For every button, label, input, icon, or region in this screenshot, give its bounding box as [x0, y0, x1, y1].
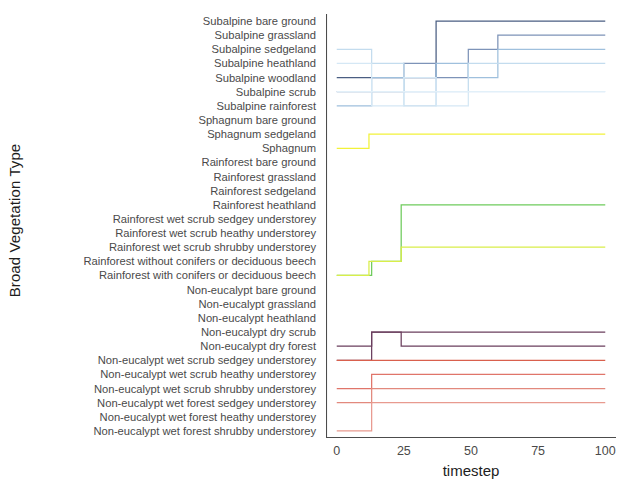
- series-line: [337, 389, 606, 403]
- series-line: [337, 247, 606, 275]
- y-axis-tick-label: Non-eucalypt wet scrub heathy understore…: [100, 369, 316, 380]
- y-axis-tick-label: Non-eucalypt wet scrub shrubby understor…: [94, 383, 316, 394]
- y-axis-tick-label: Rainforest wet scrub sedgey understorey: [113, 213, 316, 224]
- y-axis-tick-label: Rainforest wet scrub heathy understorey: [115, 228, 316, 239]
- x-axis-tick-labels: 0255075100: [326, 444, 616, 460]
- y-axis-tick-label: Non-eucalypt wet forest sedgey understor…: [97, 397, 316, 408]
- series-line: [337, 332, 606, 346]
- series-line: [337, 134, 606, 148]
- y-axis-tick-label: Subalpine heathland: [214, 58, 316, 69]
- x-axis-tick-label: 50: [464, 444, 478, 458]
- y-axis-tick-label: Non-eucalypt grassland: [198, 298, 316, 309]
- series-line: [337, 205, 606, 276]
- y-axis-tick-label: Non-eucalypt dry forest: [200, 341, 316, 352]
- x-axis-title: timestep: [326, 462, 616, 479]
- y-axis-tick-label: Sphagnum: [262, 143, 316, 154]
- y-axis-tick-label: Sphagnum bare ground: [198, 115, 316, 126]
- series-line: [337, 374, 606, 388]
- series-line: [337, 63, 606, 105]
- plot-svg: [326, 14, 616, 438]
- series-line: [337, 49, 606, 106]
- y-axis-tick-label: Subalpine sedgeland: [211, 44, 316, 55]
- y-axis-tick-label: Non-eucalypt wet forest heathy understor…: [100, 411, 316, 422]
- y-axis-tick-label: Rainforest wet scrub shrubby understorey: [109, 242, 316, 253]
- y-axis-tick-label: Sphagnum sedgeland: [207, 129, 316, 140]
- series-group: [337, 21, 606, 431]
- y-axis-tick-label: Non-eucalypt heathland: [198, 312, 316, 323]
- y-axis-tick-label: Non-eucalypt wet forest shrubby understo…: [93, 425, 316, 436]
- y-axis-tick-label: Rainforest without conifers or deciduous…: [83, 256, 316, 267]
- y-axis-tick-label: Rainforest heathland: [213, 199, 316, 210]
- y-axis-tick-label: Non-eucalypt bare ground: [187, 284, 316, 295]
- series-line: [337, 332, 606, 360]
- y-axis-tick-label: Non-eucalypt dry scrub: [201, 327, 316, 338]
- y-axis-tick-label: Rainforest grassland: [213, 171, 316, 182]
- series-line: [337, 403, 606, 431]
- y-axis-tick-label: Rainforest bare ground: [202, 157, 316, 168]
- y-axis-tick-label: Non-eucalypt wet scrub sedgey understore…: [98, 355, 316, 366]
- y-axis-tick-label: Rainforest sedgeland: [210, 185, 316, 196]
- y-axis-tick-labels: Subalpine bare groundSubalpine grassland…: [30, 14, 322, 438]
- y-axis-tick-label: Subalpine scrub: [236, 86, 316, 97]
- y-axis-tick-label: Subalpine bare ground: [203, 16, 316, 27]
- plot-area: [326, 14, 616, 438]
- vegetation-timestep-chart: Broad Vegetation Type Subalpine bare gro…: [0, 0, 625, 482]
- x-axis-tick-label: 100: [595, 444, 616, 458]
- y-axis-title-text: Broad Vegetation Type: [7, 143, 24, 297]
- y-axis-tick-label: Subalpine woodland: [215, 72, 316, 83]
- y-axis-title: Broad Vegetation Type: [0, 0, 30, 440]
- y-axis-tick-label: Subalpine rainforest: [216, 100, 316, 111]
- x-axis-tick-label: 75: [531, 444, 545, 458]
- y-axis-tick-label: Subalpine grassland: [215, 30, 316, 41]
- x-axis-tick-label: 0: [333, 444, 340, 458]
- x-axis-tick-label: 25: [397, 444, 411, 458]
- y-axis-tick-label: Rainforest with conifers or deciduous be…: [99, 270, 316, 281]
